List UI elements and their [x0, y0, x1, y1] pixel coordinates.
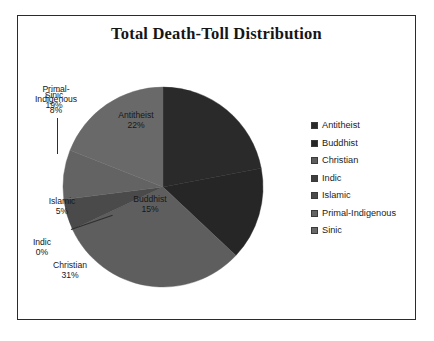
- legend-item-label: Primal-Indigenous: [322, 208, 396, 219]
- leader-line-primal-indigenous: [57, 118, 58, 154]
- legend-item-label: Islamic: [322, 190, 351, 201]
- legend-item[interactable]: Antitheist: [311, 117, 411, 135]
- legend-item[interactable]: Christian: [311, 152, 411, 170]
- legend-item-label: Buddhist: [322, 138, 358, 149]
- chart-title: Total Death-Toll Distribution: [17, 24, 416, 44]
- legend-swatch-icon: [311, 210, 318, 217]
- legend-swatch-icon: [311, 175, 318, 182]
- legend-item[interactable]: Buddhist: [311, 135, 411, 153]
- pie-slices: [63, 87, 263, 287]
- legend-swatch-icon: [311, 140, 318, 147]
- legend-swatch-icon: [311, 227, 318, 234]
- legend-item[interactable]: Sinic: [311, 222, 411, 240]
- legend-swatch-icon: [311, 192, 318, 199]
- chart-container: Total Death-Toll Distribution Antitheist…: [0, 0, 434, 341]
- legend-item-label: Indic: [322, 173, 341, 184]
- legend-item[interactable]: Indic: [311, 170, 411, 188]
- pie-chart: Antitheist 22% Buddhist 15% Christian 31…: [38, 72, 288, 302]
- legend-item[interactable]: Islamic: [311, 187, 411, 205]
- legend-swatch-icon: [311, 157, 318, 164]
- legend-swatch-icon: [311, 122, 318, 129]
- pie-svg: [38, 72, 288, 302]
- legend-item-label: Antitheist: [322, 120, 360, 131]
- chart-legend: AntitheistBuddhistChristianIndicIslamicP…: [311, 117, 411, 240]
- legend-item-label: Christian: [322, 155, 358, 166]
- legend-item-label: Sinic: [322, 225, 342, 236]
- legend-item[interactable]: Primal-Indigenous: [311, 205, 411, 223]
